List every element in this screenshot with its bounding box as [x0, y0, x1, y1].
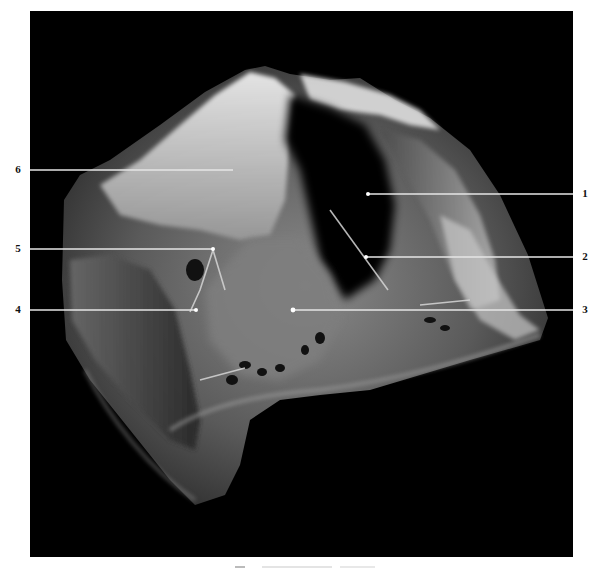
- heart-specimen-image: [30, 11, 573, 557]
- label-6: 6: [11, 164, 25, 175]
- label-5: 5: [11, 243, 25, 254]
- label-1: 1: [578, 188, 592, 199]
- label-2: 2: [578, 251, 592, 262]
- label-4: 4: [11, 304, 25, 315]
- cropped-caption: [0, 562, 599, 569]
- specimen-photo-frame: [30, 11, 573, 557]
- label-3: 3: [578, 304, 592, 315]
